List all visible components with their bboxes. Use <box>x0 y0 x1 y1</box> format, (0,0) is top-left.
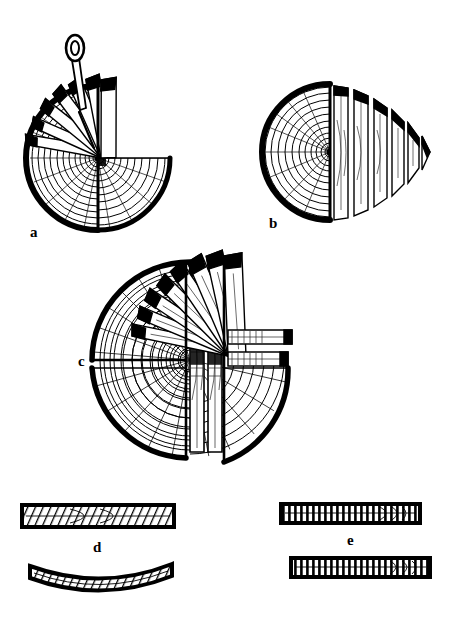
flatsawn-board-straight <box>22 505 174 527</box>
panel-label-e: e <box>347 532 354 548</box>
panel-label-b: b <box>269 215 277 231</box>
log-sawing-figure: a <box>0 0 450 618</box>
panel-label-c: c <box>78 353 85 369</box>
panel-label-d: d <box>93 539 102 555</box>
quartersawn-board-lower <box>291 558 430 577</box>
figure-root: a <box>0 0 450 618</box>
quartersawn-board-upper <box>281 504 420 523</box>
panel-label-a: a <box>30 224 38 240</box>
